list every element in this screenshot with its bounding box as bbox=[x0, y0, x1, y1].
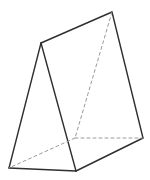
edge-front_bottom_right--back_bottom_right bbox=[76, 138, 143, 171]
edge-back_top_apex--back_bottom_hidden bbox=[75, 12, 112, 138]
edge-front_bottom_left--front_bottom_right bbox=[9, 168, 76, 171]
edge-front_top_apex--front_bottom_left bbox=[9, 43, 41, 168]
prism-figure bbox=[0, 0, 150, 180]
edge-front_top_apex--back_top_apex bbox=[41, 12, 112, 43]
edge-back_bottom_hidden--front_bottom_left bbox=[9, 138, 75, 168]
edge-front_top_apex--front_bottom_right bbox=[41, 43, 76, 171]
triangular-prism-svg bbox=[0, 0, 150, 180]
edge-back_top_apex--back_bottom_right bbox=[112, 12, 143, 138]
